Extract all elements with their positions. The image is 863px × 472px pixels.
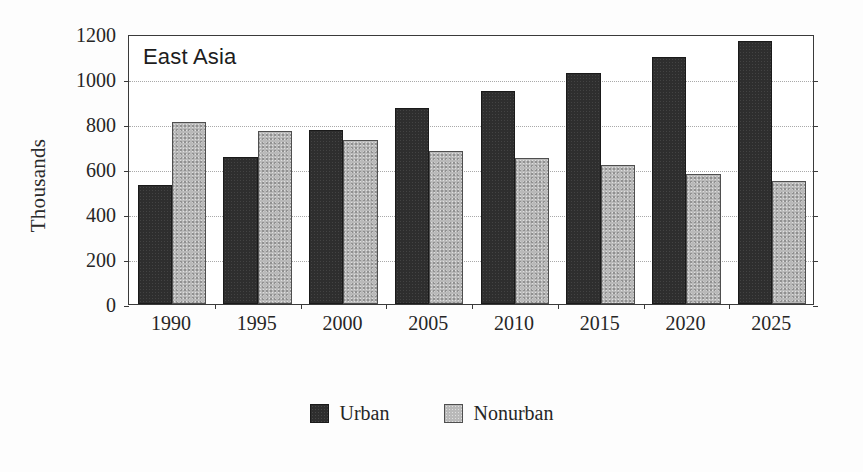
x-axis-tick-label: 2015 — [580, 312, 620, 335]
y-axis-tick-label: 800 — [86, 114, 116, 137]
y-axis-tick-mark-right — [813, 126, 818, 127]
y-axis-tick-mark — [124, 216, 129, 217]
y-axis-title: Thousands — [14, 90, 64, 280]
bar-nonurban-2010 — [515, 158, 549, 304]
y-axis-tick-label: 200 — [86, 249, 116, 272]
x-axis-tick-label: 2005 — [408, 312, 448, 335]
bar-urban-1995 — [223, 157, 257, 304]
bar-nonurban-1990 — [172, 122, 206, 304]
y-axis-tick-label: 1000 — [76, 69, 116, 92]
y-axis-tick-mark-right — [813, 216, 818, 217]
legend-item-urban[interactable]: Urban — [310, 402, 390, 425]
bar-urban-2025 — [738, 41, 772, 304]
bar-urban-2020 — [652, 57, 686, 304]
y-axis-tick-mark-right — [813, 306, 818, 307]
x-axis-tick-label: 1990 — [151, 312, 191, 335]
bar-urban-2005 — [395, 108, 429, 304]
y-axis-tick-label: 0 — [106, 294, 116, 317]
y-axis-tick-mark — [124, 306, 129, 307]
x-axis-tick-label: 1995 — [237, 312, 277, 335]
x-axis-tick-label: 2020 — [665, 312, 705, 335]
gridline — [129, 126, 813, 127]
gridline — [129, 81, 813, 82]
x-axis-tick-mark — [386, 304, 387, 309]
x-axis-tick-labels: 19901995200020052010201520202025 — [128, 312, 814, 342]
x-axis-tick-label: 2025 — [751, 312, 791, 335]
chart-title: East Asia — [143, 44, 237, 70]
bar-urban-2015 — [566, 73, 600, 304]
y-axis-tick-mark-right — [813, 81, 818, 82]
y-axis-tick-mark — [124, 171, 129, 172]
bar-nonurban-2015 — [601, 165, 635, 304]
y-axis-tick-mark — [124, 81, 129, 82]
bar-nonurban-2005 — [429, 151, 463, 304]
bar-urban-2000 — [309, 130, 343, 304]
legend-swatch-urban-icon — [310, 404, 329, 423]
x-axis-tick-label: 2000 — [322, 312, 362, 335]
bar-nonurban-1995 — [258, 131, 292, 304]
x-axis-tick-mark — [558, 304, 559, 309]
x-axis-tick-mark — [729, 304, 730, 309]
x-axis-tick-mark — [215, 304, 216, 309]
bar-urban-2010 — [481, 91, 515, 304]
x-axis-tick-mark — [644, 304, 645, 309]
plot-area: East Asia — [128, 35, 814, 305]
bar-urban-1990 — [138, 185, 172, 304]
chart-legend: UrbanNonurban — [0, 402, 863, 425]
y-axis-tick-mark-right — [813, 171, 818, 172]
chart-figure: Thousands 020040060080010001200 East Asi… — [0, 0, 863, 472]
y-axis-tick-label: 1200 — [76, 24, 116, 47]
legend-label: Nonurban — [474, 402, 554, 425]
x-axis-tick-label: 2010 — [494, 312, 534, 335]
y-axis-title-text: Thousands — [27, 138, 52, 232]
bar-nonurban-2020 — [686, 174, 720, 305]
bar-nonurban-2025 — [772, 181, 806, 304]
x-axis-tick-mark — [472, 304, 473, 309]
y-axis-tick-mark-right — [813, 261, 818, 262]
bar-nonurban-2000 — [343, 140, 377, 304]
y-axis-tick-mark — [124, 126, 129, 127]
legend-item-nonurban[interactable]: Nonurban — [444, 402, 554, 425]
x-axis-tick-mark — [301, 304, 302, 309]
y-axis-tick-label: 600 — [86, 159, 116, 182]
y-axis-tick-label: 400 — [86, 204, 116, 227]
legend-swatch-nonurban-icon — [444, 404, 463, 423]
legend-label: Urban — [340, 402, 390, 425]
y-axis-tick-mark — [124, 261, 129, 262]
